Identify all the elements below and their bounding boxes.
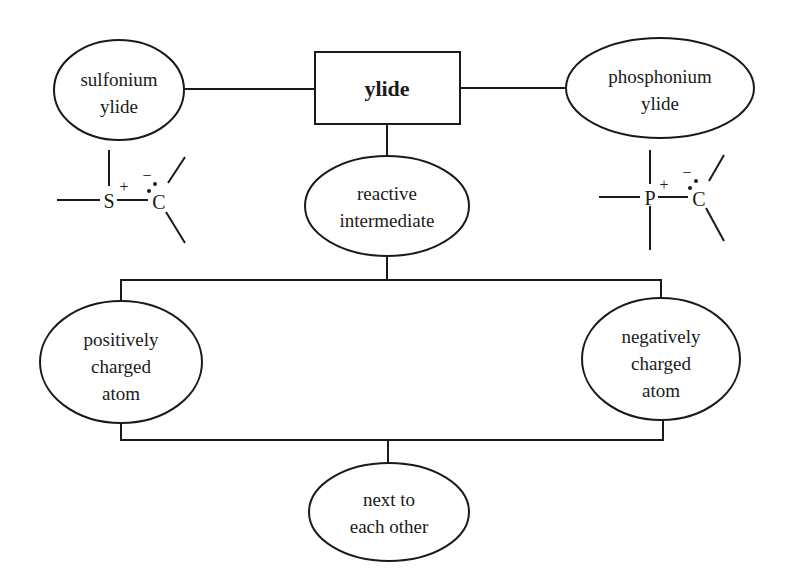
svg-text:charged: charged [631,353,691,374]
sulfur-atom: S [103,190,114,212]
svg-text:phosphonium: phosphonium [608,66,712,87]
node-negatively-charged-atom: negatively charged atom [582,298,740,420]
node-phosphonium-ylide: phosphonium ylide [566,38,754,138]
svg-text:intermediate: intermediate [340,210,435,231]
svg-text:atom: atom [102,383,140,404]
svg-text:each other: each other [350,516,429,537]
phosphonium-ylide-structure: P + C − [599,150,724,250]
phosphorus-atom: P [644,187,655,209]
svg-text:positively: positively [84,329,159,350]
svg-text:reactive: reactive [357,183,417,204]
svg-text:atom: atom [642,380,680,401]
svg-text:negatively: negatively [621,326,701,347]
plus-charge: + [659,176,668,193]
svg-text:ylide: ylide [100,96,138,117]
node-sulfonium-ylide: sulfonium ylide [54,40,184,140]
branch-bottom [121,420,663,440]
minus-charge: − [142,167,151,184]
svg-text:next to: next to [363,489,415,510]
node-positively-charged-atom: positively charged atom [40,301,202,423]
lone-pair-dot [694,179,698,183]
svg-text:charged: charged [91,356,151,377]
node-ylide-label: ylide [364,76,409,101]
ylide-concept-map: ylide sulfonium ylide phosphonium ylide … [0,0,795,588]
carbon-atom: C [692,188,705,210]
branch-top [121,280,661,301]
lone-pair-dot [688,186,692,190]
lone-pair-dot [153,182,157,186]
node-ylide: ylide [315,52,460,124]
lone-pair-dot [147,189,151,193]
sulfonium-ylide-structure: S + C − [57,150,185,243]
carbon-atom: C [152,191,165,213]
svg-text:ylide: ylide [641,93,679,114]
svg-text:sulfonium: sulfonium [80,69,157,90]
minus-charge: − [682,164,691,181]
node-reactive-intermediate: reactive intermediate [305,156,469,256]
plus-charge: + [119,178,128,195]
node-next-to-each-other: next to each other [309,463,469,561]
